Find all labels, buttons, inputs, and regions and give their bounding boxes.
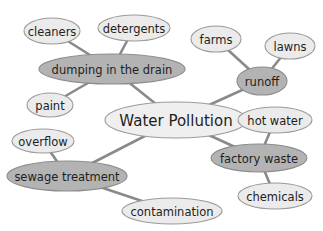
node-detergents: detergents [98, 15, 170, 41]
node-label: cleaners [28, 25, 77, 39]
node-label: farms [200, 33, 233, 47]
node-label: chemicals [246, 190, 304, 204]
node-label: lawns [274, 40, 307, 54]
node-label: Water Pollution [119, 112, 232, 130]
node-dumping: dumping in the drain [39, 54, 185, 84]
node-lawns: lawns [265, 33, 315, 59]
node-water-pollution: Water Pollution [105, 102, 247, 138]
node-label: runoff [245, 75, 280, 89]
node-factory-waste: factory waste [211, 144, 307, 172]
node-farms: farms [191, 26, 241, 52]
node-contamination: contamination [122, 198, 222, 224]
node-chemicals: chemicals [238, 183, 312, 209]
node-label: overflow [18, 135, 67, 149]
node-label: factory waste [220, 152, 298, 166]
node-label: hot water [247, 114, 303, 128]
node-overflow: overflow [12, 129, 74, 153]
node-sewage: sewage treatment [7, 161, 127, 191]
node-hot-water: hot water [238, 107, 312, 133]
nodes: Water Pollutiondumping in the drainclean… [7, 15, 315, 224]
node-label: detergents [103, 22, 166, 36]
node-label: contamination [131, 205, 214, 219]
node-paint: paint [27, 93, 73, 117]
node-label: paint [35, 99, 65, 113]
node-label: dumping in the drain [52, 63, 173, 77]
node-runoff: runoff [237, 67, 287, 95]
node-label: sewage treatment [14, 170, 120, 184]
concept-map: Water Pollutiondumping in the drainclean… [0, 0, 323, 231]
node-cleaners: cleaners [24, 18, 80, 44]
